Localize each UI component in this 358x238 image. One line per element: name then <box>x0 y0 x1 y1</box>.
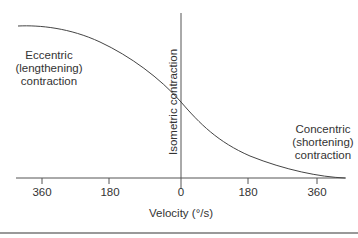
x-axis-title: Velocity (°/s) <box>131 207 231 220</box>
concentric-line-2: (shortening) <box>283 136 358 149</box>
concentric-label: Concentric (shortening) contraction <box>283 123 358 162</box>
tick-label-180: 180 <box>238 186 257 198</box>
eccentric-line-1: Eccentric <box>14 49 84 62</box>
chart-canvas <box>0 0 358 238</box>
isometric-label: Isometric contraction <box>167 49 179 155</box>
concentric-line-3: contraction <box>283 149 358 162</box>
concentric-line-1: Concentric <box>283 123 358 136</box>
tick-label-360: 360 <box>307 186 326 198</box>
tick-label-neg180: 180 <box>100 186 119 198</box>
eccentric-line-3: contraction <box>14 75 84 88</box>
tick-label-0: 0 <box>178 186 184 198</box>
eccentric-label: Eccentric (lengthening) contraction <box>14 49 84 88</box>
tick-label-neg360: 360 <box>32 186 51 198</box>
x-axis-ticks <box>42 178 317 184</box>
eccentric-line-2: (lengthening) <box>14 62 84 75</box>
